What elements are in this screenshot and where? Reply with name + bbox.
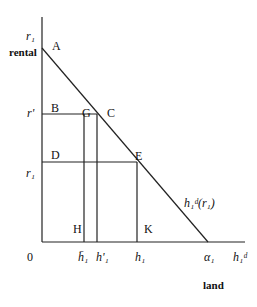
rental-land-diagram: r₁ rental r' r₁ A B G C D E H K h₁ᵈ(r₁) …	[0, 0, 257, 307]
x-tick-alpha1: α₁	[204, 250, 214, 264]
origin-label: 0	[27, 250, 33, 264]
demand-curve-label: h₁ᵈ(r₁)	[184, 196, 215, 210]
y-axis-label: rental	[9, 46, 37, 58]
y-tick-r1: r₁	[26, 166, 35, 180]
point-H: H	[73, 222, 82, 236]
y-axis-top-label: r₁	[26, 29, 35, 43]
point-G: G	[82, 106, 91, 120]
x-tick-h1: h₁	[135, 250, 145, 264]
point-K: K	[144, 222, 153, 236]
point-B: B	[51, 101, 59, 115]
demand-curve	[42, 48, 208, 242]
x-tick-h1-prime: h'₁	[96, 250, 109, 264]
x-axis-end-label: h₁ᵈ	[233, 250, 248, 264]
point-E: E	[135, 149, 142, 163]
point-D: D	[51, 148, 60, 162]
point-A: A	[52, 39, 61, 53]
point-C: C	[107, 106, 115, 120]
y-tick-r-prime: r'	[27, 106, 35, 120]
x-tick-h1-bar: h̄₁	[78, 250, 88, 264]
x-axis-label: land	[203, 279, 224, 291]
